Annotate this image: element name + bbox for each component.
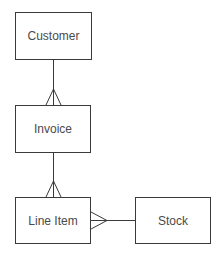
entity-stock[interactable]: Stock (135, 197, 211, 244)
relationship-invoice-line-item (46, 152, 61, 197)
entity-label: Customer (27, 29, 79, 43)
relationship-stock-line-item (91, 212, 135, 229)
relationship-customer-invoice (46, 59, 61, 105)
entity-label: Invoice (34, 122, 72, 136)
entity-invoice[interactable]: Invoice (15, 105, 91, 153)
entity-line-item[interactable]: Line Item (15, 197, 91, 244)
entity-customer[interactable]: Customer (15, 12, 92, 60)
entity-label: Stock (158, 214, 188, 228)
entity-label: Line Item (28, 214, 77, 228)
